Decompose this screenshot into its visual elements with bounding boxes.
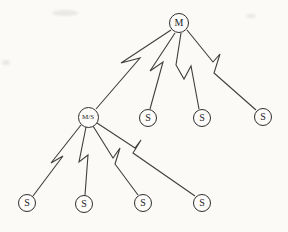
wireless-link-ms-s5	[79, 127, 88, 195]
node-label: S	[199, 113, 205, 123]
wireless-link-m-s1	[150, 33, 175, 109]
node-label: S	[81, 199, 87, 209]
node-label: M/S	[82, 114, 94, 121]
diagram: MM/SSSSSSSS	[0, 0, 288, 232]
wireless-link-ms-s7	[97, 123, 195, 196]
node-label: S	[260, 112, 266, 122]
node-m: M	[169, 13, 189, 33]
wireless-link-m-ms	[96, 30, 171, 109]
wireless-link-m-s2	[176, 33, 199, 109]
wireless-link-ms-s6	[93, 126, 138, 195]
node-label: S	[199, 198, 205, 208]
node-label: S	[145, 113, 151, 123]
scan-smudge	[52, 10, 78, 16]
node-s3: S	[254, 108, 272, 126]
node-s4: S	[18, 194, 36, 212]
wireless-link-ms-s4	[33, 125, 81, 196]
node-s2: S	[193, 109, 211, 127]
node-label: S	[140, 198, 146, 208]
node-s7: S	[193, 194, 211, 212]
node-s6: S	[134, 194, 152, 212]
scan-smudge	[246, 14, 256, 18]
node-ms: M/S	[78, 107, 99, 128]
node-label: S	[24, 198, 30, 208]
scan-smudge	[2, 60, 10, 65]
node-s5: S	[75, 195, 93, 213]
node-label: M	[175, 18, 184, 28]
node-s1: S	[139, 109, 157, 127]
